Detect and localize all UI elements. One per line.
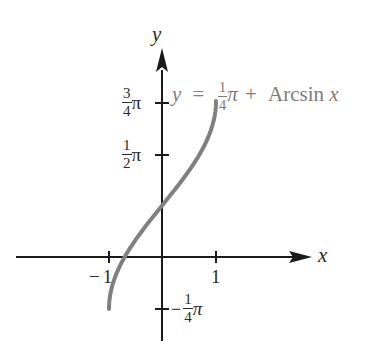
- y-tick-label-half-pi: 12π: [122, 138, 141, 171]
- y-tick-label-neg-quarter-pi: −14π: [171, 292, 202, 325]
- equation-fraction: 14: [218, 80, 228, 113]
- fraction: 12: [122, 138, 132, 171]
- equation-lhs: y: [172, 82, 181, 106]
- y-tick-label-three-quarter-pi: 34π: [122, 86, 141, 119]
- equation-plus: +: [245, 82, 257, 106]
- pi-symbol: π: [132, 144, 142, 165]
- equation-pi: π: [227, 82, 238, 106]
- tick-value: 1: [103, 266, 113, 287]
- fraction: 14: [183, 292, 193, 325]
- minus-sign: −: [89, 266, 100, 287]
- fraction: 34: [122, 86, 132, 119]
- minus-sign: −: [171, 299, 181, 319]
- equation-func: Arcsin: [268, 82, 324, 106]
- x-axis-label: x: [318, 245, 327, 266]
- pi-symbol: π: [193, 298, 203, 319]
- equation-equals: =: [193, 82, 205, 106]
- y-axis-arrow-icon: [156, 48, 168, 72]
- x-tick-label-one: 1: [211, 267, 221, 286]
- pi-symbol: π: [132, 92, 142, 113]
- x-tick-label-minus-one: −1: [89, 267, 112, 286]
- y-axis-label: y: [152, 24, 161, 45]
- equation-arg: x: [329, 82, 338, 106]
- curve-equation-label: y = 14π + Arcsin x: [172, 80, 339, 113]
